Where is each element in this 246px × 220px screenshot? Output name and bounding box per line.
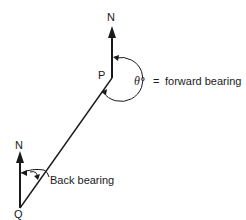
point-label-q: Q (14, 209, 23, 220)
equals-sign: = (153, 76, 159, 87)
north-label-p: N (107, 12, 115, 23)
theta-symbol: θ° (134, 75, 145, 87)
line-pq (20, 78, 112, 208)
point-label-p: P (98, 70, 105, 81)
north-label-q: N (15, 140, 23, 151)
bearing-diagram: N P θ° = forward bearing N Back bearing … (0, 0, 246, 220)
north-arrow-q (16, 151, 24, 208)
back-bearing-arc (21, 169, 49, 180)
back-bearing-label: Back bearing (50, 175, 114, 186)
north-arrow-p (108, 26, 116, 78)
forward-bearing-label: forward bearing (165, 76, 241, 87)
diagram-lines (0, 0, 246, 220)
